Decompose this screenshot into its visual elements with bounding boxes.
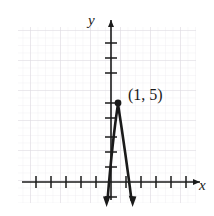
y-axis-label: y [88, 13, 95, 28]
vertex-point-marker [115, 100, 122, 107]
grid-background [18, 27, 196, 203]
graph-figure: y x (1, 5) [0, 0, 214, 216]
coordinate-plane-svg [0, 0, 214, 216]
vertex-coordinate-label: (1, 5) [128, 87, 163, 103]
x-axis-label: x [199, 178, 206, 193]
